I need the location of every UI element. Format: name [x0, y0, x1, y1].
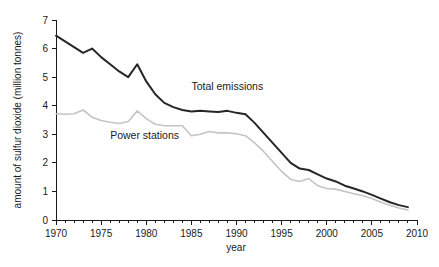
y-tick-label: 4: [42, 100, 48, 111]
x-tick-label: 2010: [406, 228, 429, 239]
y-tick-label: 2: [42, 157, 48, 168]
x-tick-label: 2000: [316, 228, 339, 239]
x-major-tick-group: 197019751980198519901995200020052010: [45, 220, 429, 239]
x-tick-label: 1990: [225, 228, 248, 239]
y-tick-label: 6: [42, 43, 48, 54]
axes-group: [56, 20, 417, 220]
sulfur-dioxide-line-chart: 01234567 1970197519801985199019952000200…: [0, 0, 439, 267]
y-tick-label: 3: [42, 129, 48, 140]
x-tick-label: 1995: [271, 228, 294, 239]
series-annotation-power-stations: Power stations: [110, 129, 179, 141]
x-tick-label: 1985: [180, 228, 203, 239]
y-tick-label: 1: [42, 186, 48, 197]
y-axis-title: amount of sulfur dioxide (million tonnes…: [12, 32, 23, 209]
y-tick-label: 5: [42, 72, 48, 83]
series-group: [56, 36, 408, 210]
series-annotation-total-emissions: Total emissions: [191, 80, 263, 92]
x-tick-label: 1975: [90, 228, 113, 239]
chart-container: 01234567 1970197519801985199019952000200…: [0, 0, 439, 267]
x-tick-label: 2005: [361, 228, 384, 239]
y-tick-label: 0: [42, 215, 48, 226]
x-axis-title: year: [226, 242, 246, 253]
x-tick-label: 1980: [135, 228, 158, 239]
x-tick-label: 1970: [45, 228, 68, 239]
y-tick-group: 01234567: [42, 15, 56, 226]
y-tick-label: 7: [42, 15, 48, 26]
series-line-power-stations: [56, 110, 408, 210]
